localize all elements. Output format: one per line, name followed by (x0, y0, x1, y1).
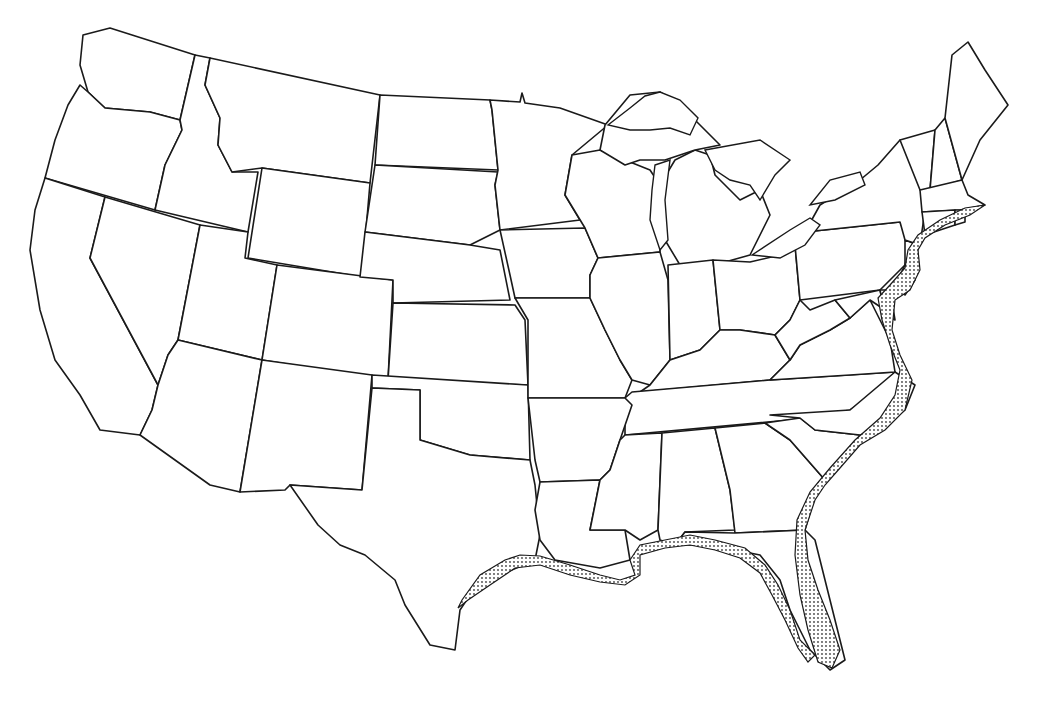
state-north-dakota (375, 95, 498, 170)
state-kansas (388, 303, 528, 385)
state-iowa (500, 228, 598, 298)
state-new-mexico (240, 360, 372, 492)
state-wyoming (248, 168, 370, 277)
state-montana (205, 58, 380, 183)
state-south-dakota (365, 165, 500, 245)
us-outline-map (0, 0, 1046, 701)
